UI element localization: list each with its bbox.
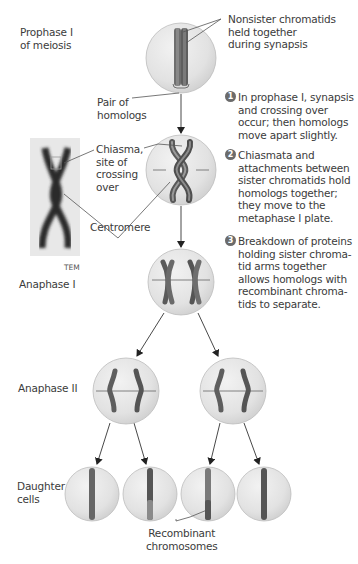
callout-recombinant-chromosomes: Recombinant chromosomes	[146, 527, 217, 552]
stage-label-anaphase2: Anaphase II	[18, 382, 77, 395]
step-3-number-badge: 3	[225, 235, 236, 246]
cell-anaphase1	[148, 249, 214, 315]
cell-anaphase2-right	[200, 358, 266, 424]
daughter-cell-2	[123, 467, 177, 521]
step-3: 3 Breakdown of proteins holding sister c…	[225, 235, 355, 313]
cell-prophase	[146, 23, 216, 93]
stage-label-daughter: Daughter cells	[17, 480, 65, 505]
stage-label-anaphase1: Anaphase I	[19, 278, 75, 291]
callout-pair-of-homologs: Pair of homologs	[97, 96, 147, 121]
step-3-text: Breakdown of proteins holding sister chr…	[238, 235, 352, 310]
cell-chiasma	[146, 135, 216, 205]
step-2: 2 Chiasmata and attachments between sist…	[225, 149, 355, 227]
step-2-number-badge: 2	[225, 149, 236, 160]
step-1-number-badge: 1	[225, 91, 236, 102]
tem-micrograph	[30, 138, 80, 256]
tem-label: TEM	[64, 263, 80, 272]
stage-label-prophase: Prophase I of meiosis	[20, 26, 73, 51]
daughter-cell-1	[65, 467, 119, 521]
daughter-cell-3	[181, 467, 235, 521]
step-1-text: In prophase I, synapsis and crossing ove…	[238, 91, 354, 141]
step-2-text: Chiasmata and attachments between sister…	[238, 149, 350, 224]
cell-anaphase2-left	[93, 358, 159, 424]
callout-centromere: Centromere	[90, 221, 150, 234]
daughter-cell-4	[237, 467, 291, 521]
callout-nonsister-chromatids: Nonsister chromatids held together durin…	[228, 13, 336, 51]
callout-chiasma: Chiasma, site of crossing over	[96, 143, 143, 193]
step-1: 1 In prophase I, synapsis and crossing o…	[225, 91, 355, 143]
